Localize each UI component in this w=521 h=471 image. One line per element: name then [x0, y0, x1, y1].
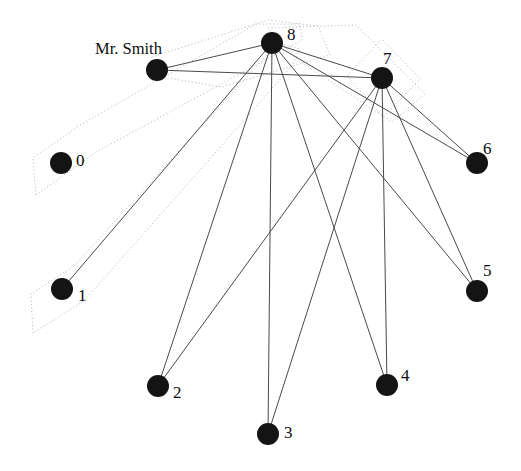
graph-node-n1[interactable]: [51, 278, 73, 300]
graph-edge: [158, 43, 272, 386]
node-label-n8: 8: [287, 25, 296, 44]
graph-node-n5[interactable]: [466, 280, 488, 302]
network-graph-svg: Mr. Smith012345678: [0, 0, 521, 471]
edge-layer: [62, 43, 477, 434]
graph-edge: [382, 78, 387, 385]
network-graph-canvas: Mr. Smith012345678: [0, 0, 521, 471]
cluster-hull: [149, 20, 330, 87]
node-label-n4: 4: [401, 366, 410, 385]
graph-node-n7[interactable]: [371, 67, 393, 89]
graph-edge: [158, 78, 382, 386]
node-label-n5: 5: [483, 261, 492, 280]
node-label-n1: 1: [78, 286, 87, 305]
graph-node-n3[interactable]: [257, 423, 279, 445]
graph-node-smith[interactable]: [146, 59, 168, 81]
graph-edge: [382, 78, 477, 291]
node-label-n0: 0: [76, 151, 85, 170]
graph-node-n4[interactable]: [376, 374, 398, 396]
graph-edge: [157, 70, 382, 78]
person-name-label: Mr. Smith: [95, 39, 163, 58]
node-label-n3: 3: [284, 423, 293, 442]
graph-edge: [62, 43, 272, 289]
graph-node-n2[interactable]: [147, 375, 169, 397]
node-label-n7: 7: [383, 49, 392, 68]
graph-edge: [157, 43, 272, 70]
node-label-n2: 2: [173, 383, 182, 402]
node-label-n6: 6: [483, 139, 492, 158]
graph-node-n8[interactable]: [261, 32, 283, 54]
graph-edge: [268, 43, 272, 434]
cluster-hull: [33, 24, 302, 195]
graph-edge: [382, 78, 477, 163]
graph-edge: [268, 78, 382, 434]
graph-node-n0[interactable]: [50, 152, 72, 174]
